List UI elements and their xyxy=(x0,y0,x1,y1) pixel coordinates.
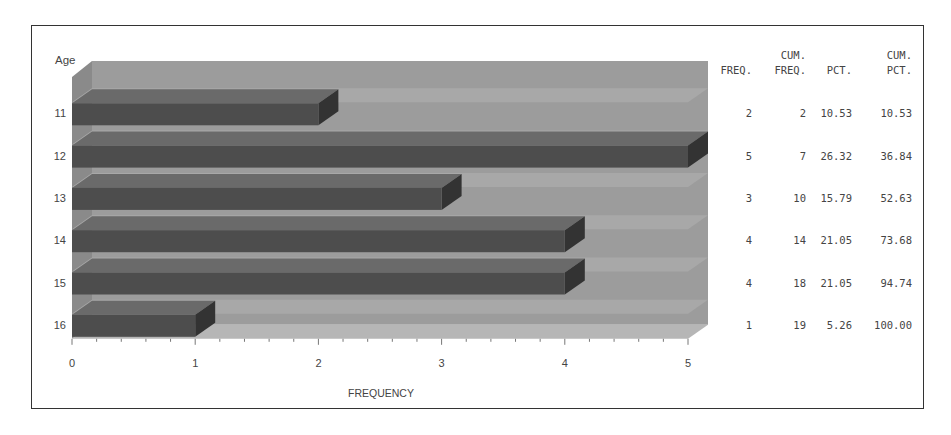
y-tick-label: 13 xyxy=(52,192,66,204)
table-cell-cum-pct: 73.68 xyxy=(860,234,912,246)
bar-16 xyxy=(72,315,195,337)
table-cell-pct: 10.53 xyxy=(810,107,852,119)
bar-14 xyxy=(72,230,565,252)
bar-12 xyxy=(72,146,688,168)
table-cell-cum-freq: 19 xyxy=(760,319,806,331)
table-cell-pct: 15.79 xyxy=(810,192,852,204)
header-cum-freq: FREQ. xyxy=(760,64,806,76)
table-cell-freq: 1 xyxy=(700,319,752,331)
header-cum-freq-top: CUM. xyxy=(764,49,806,61)
x-tick-label: 3 xyxy=(439,357,445,369)
bar-15 xyxy=(72,273,565,295)
bar-11 xyxy=(72,103,318,125)
table-cell-pct: 21.05 xyxy=(810,234,852,246)
header-cum-pct: PCT. xyxy=(860,64,912,76)
x-tick-label: 5 xyxy=(685,357,691,369)
x-tick-label: 2 xyxy=(315,357,321,369)
table-cell-cum-freq: 18 xyxy=(760,277,806,289)
table-cell-cum-pct: 52.63 xyxy=(860,192,912,204)
bar-top-face xyxy=(72,174,462,188)
y-tick-label: 16 xyxy=(52,319,66,331)
y-tick-label: 11 xyxy=(52,107,66,119)
table-cell-cum-pct: 100.00 xyxy=(860,319,912,331)
bar-top-face xyxy=(72,301,215,315)
table-cell-cum-pct: 10.53 xyxy=(860,107,912,119)
bar-chart-3d xyxy=(0,0,951,435)
table-cell-cum-freq: 10 xyxy=(760,192,806,204)
x-tick-label: 4 xyxy=(562,357,568,369)
y-axis-title: Age xyxy=(55,54,75,66)
x-tick-label: 1 xyxy=(192,357,198,369)
table-cell-freq: 2 xyxy=(700,107,752,119)
table-cell-pct: 5.26 xyxy=(810,319,852,331)
table-cell-cum-pct: 94.74 xyxy=(860,277,912,289)
table-cell-pct: 26.32 xyxy=(810,150,852,162)
header-pct: PCT. xyxy=(810,64,852,76)
y-tick-label: 12 xyxy=(52,150,66,162)
bar-top-face xyxy=(72,132,708,146)
bar-top-face xyxy=(72,216,585,230)
table-cell-pct: 21.05 xyxy=(810,277,852,289)
x-tick-label: 0 xyxy=(69,357,75,369)
table-cell-freq: 5 xyxy=(700,150,752,162)
bar-13 xyxy=(72,188,442,210)
y-tick-label: 14 xyxy=(52,234,66,246)
table-cell-freq: 3 xyxy=(700,192,752,204)
table-cell-cum-freq: 14 xyxy=(760,234,806,246)
table-cell-cum-pct: 36.84 xyxy=(860,150,912,162)
bar-top-face xyxy=(72,259,585,273)
header-freq: FREQ. xyxy=(700,64,752,76)
header-cum-pct-top: CUM. xyxy=(870,49,912,61)
table-cell-freq: 4 xyxy=(700,277,752,289)
y-tick-label: 15 xyxy=(52,277,66,289)
x-axis-title: FREQUENCY xyxy=(348,387,414,399)
bar-top-face xyxy=(72,89,338,103)
table-cell-cum-freq: 2 xyxy=(760,107,806,119)
table-cell-cum-freq: 7 xyxy=(760,150,806,162)
table-cell-freq: 4 xyxy=(700,234,752,246)
